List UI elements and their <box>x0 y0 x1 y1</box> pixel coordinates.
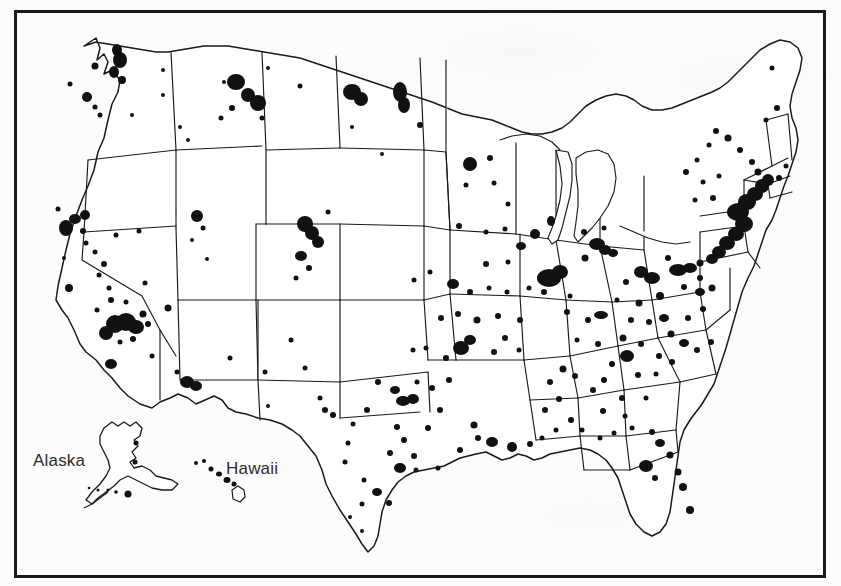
state-boundaries <box>56 38 802 552</box>
hawaii-inset <box>232 486 245 502</box>
conus-outline <box>56 38 802 552</box>
scanned-map-figure: Alaska Hawaii <box>0 0 841 586</box>
alaska-inset-label: Alaska <box>33 451 85 471</box>
hawaii-inset-label: Hawaii <box>226 459 278 479</box>
us-dot-density-map <box>0 0 841 586</box>
